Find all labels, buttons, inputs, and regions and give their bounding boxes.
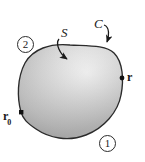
label-region-1: 1 [99, 135, 116, 152]
point-marker-r0 [19, 110, 23, 114]
label-region-2: 2 [17, 36, 34, 53]
label-surface-s: S [61, 26, 68, 39]
arrow-c-to-boundary [104, 25, 109, 42]
label-r0-subscript: 0 [7, 118, 11, 127]
label-reference-point-r0: r0 [3, 110, 12, 125]
surface-region [18, 45, 122, 139]
diagram-svg [0, 0, 145, 162]
figure-canvas: S C r r0 2 1 [0, 0, 145, 162]
point-marker-r [120, 76, 125, 81]
surface-edge-shading [18, 45, 122, 139]
label-curve-c: C [94, 17, 103, 30]
label-position-vector-r: r [127, 71, 132, 83]
